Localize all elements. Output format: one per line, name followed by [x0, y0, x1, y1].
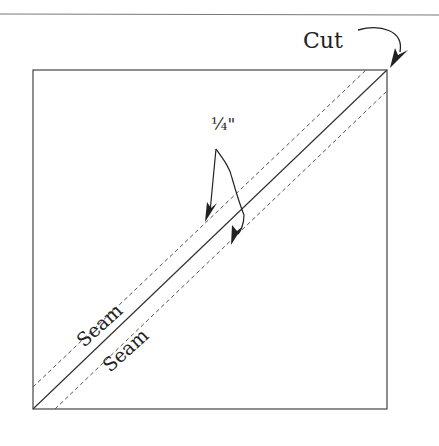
- cut-arrowhead-icon: [390, 48, 408, 68]
- seam-allowance-arrowhead-right-icon: [231, 225, 243, 245]
- diagram-canvas: Cut ¼" Seam Seam: [0, 0, 439, 446]
- seam-allowance-arrow-left-icon: [210, 149, 216, 212]
- seam-allowance-arrow-right-icon: [216, 149, 244, 234]
- top-rule: [0, 14, 439, 15]
- cut-label: Cut: [303, 28, 343, 53]
- cut-line: [33, 70, 387, 409]
- seam-allowance-label: ¼": [211, 114, 235, 134]
- cut-arrow-icon: [358, 28, 400, 52]
